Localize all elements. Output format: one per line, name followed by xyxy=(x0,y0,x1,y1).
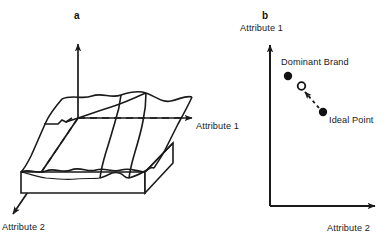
panel-b-dominant-brand-label: Dominant Brand xyxy=(281,58,349,67)
panel-a-attribute2-label: Attribute 2 xyxy=(2,223,45,232)
panel-a-slab-front-face xyxy=(21,172,145,193)
panel-b-shift-arrow xyxy=(305,92,319,108)
panel-a-surface-right-crease xyxy=(129,93,146,178)
panel-a-surface-left-slope xyxy=(21,99,62,172)
panel-b-letter: b xyxy=(262,11,268,21)
panel-b-point-ideal-point xyxy=(319,108,327,116)
figure-root: a Attribute 1 Attribute 2 b Attribute 1 … xyxy=(0,0,386,243)
panel-b-point-dominant-brand xyxy=(284,72,292,80)
panel-b-attribute2-label: Attribute 2 xyxy=(327,224,370,233)
panel-b-point-shifted-position xyxy=(298,82,306,90)
panel-a-surface-back-ridge xyxy=(62,92,192,102)
panel-a-letter: a xyxy=(74,11,80,21)
panel-b-graphic xyxy=(270,45,375,206)
panel-b-ideal-point-label: Ideal Point xyxy=(329,116,374,125)
panel-b-attribute1-label: Attribute 1 xyxy=(240,24,283,33)
panel-a-attribute1-label: Attribute 1 xyxy=(196,122,239,131)
panel-a-graphic xyxy=(13,44,192,214)
